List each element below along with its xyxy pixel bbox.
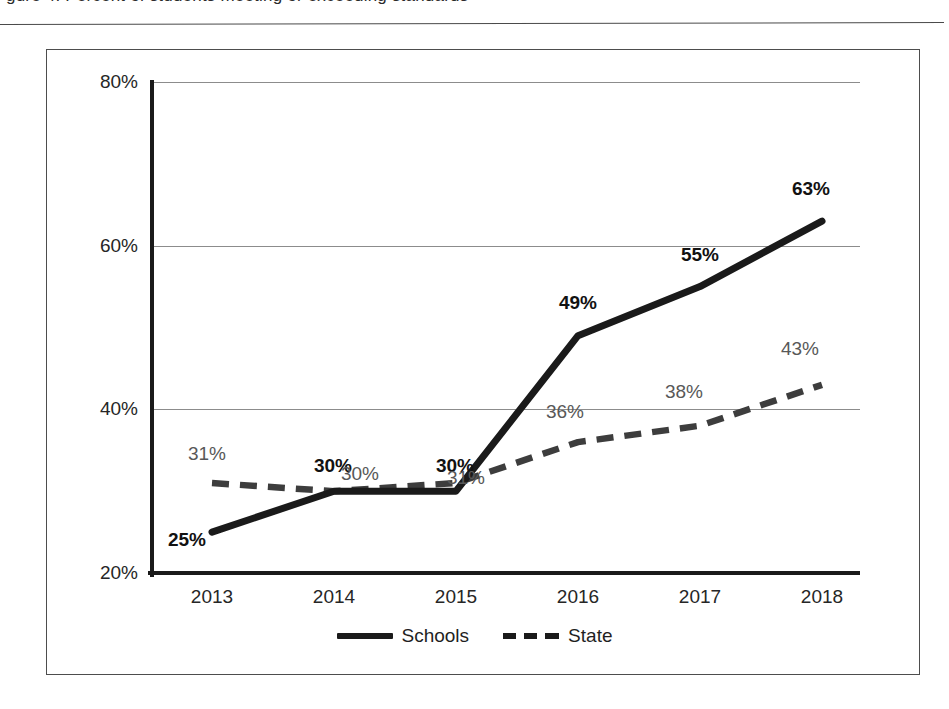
plot-area	[150, 82, 860, 573]
x-tick-2013: 2013	[157, 586, 267, 608]
state-label-2017: 38%	[665, 381, 703, 403]
schools-label-2016: 49%	[559, 292, 597, 314]
gridline-60	[150, 246, 860, 247]
legend-label-schools: Schools	[402, 625, 470, 647]
legend-label-state: State	[568, 625, 612, 647]
x-tick-2014: 2014	[279, 586, 389, 608]
x-tick-2016: 2016	[523, 586, 633, 608]
state-label-2013: 31%	[188, 443, 226, 465]
solid-line-swatch-icon	[337, 633, 393, 639]
x-tick-2015: 2015	[401, 586, 511, 608]
schools-label-2013: 25%	[168, 529, 206, 551]
y-tick-20: 20%	[62, 562, 138, 584]
gridline-80	[150, 82, 860, 83]
header-divider-rule	[0, 22, 944, 25]
schools-label-2017: 55%	[681, 244, 719, 266]
state-label-2014: 30%	[341, 463, 379, 485]
x-tick-2018: 2018	[767, 586, 877, 608]
chart-legend: Schools State	[0, 625, 949, 647]
state-label-2018: 43%	[781, 338, 819, 360]
state-label-2015: 31%	[447, 467, 485, 489]
y-tick-40: 40%	[62, 398, 138, 420]
figure-caption-text: gure 4. Percent of students meeting or e…	[0, 0, 949, 6]
legend-item-schools[interactable]: Schools	[337, 625, 470, 647]
state-label-2016: 36%	[546, 401, 584, 423]
legend-item-state[interactable]: State	[503, 625, 612, 647]
y-tick-60: 60%	[62, 235, 138, 257]
schools-label-2018: 63%	[792, 178, 830, 200]
y-axis-line	[150, 80, 154, 577]
x-axis-line	[148, 571, 860, 575]
y-tick-80: 80%	[62, 71, 138, 93]
figure-caption-strip: gure 4. Percent of students meeting or e…	[0, 0, 949, 6]
dashed-line-swatch-icon	[503, 633, 559, 639]
gridline-40	[150, 409, 860, 410]
x-tick-2017: 2017	[645, 586, 755, 608]
